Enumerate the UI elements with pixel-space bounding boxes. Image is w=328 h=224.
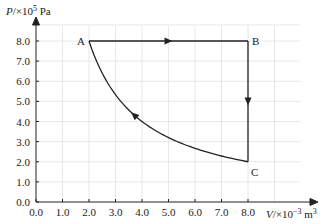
x-tick-label: 6.0 [188, 206, 202, 218]
y-tick-label: 5.0 [16, 95, 30, 107]
x-tick-label: 3.0 [109, 206, 123, 218]
direction-arrows [131, 38, 251, 121]
y-tick-label: 2.0 [16, 156, 30, 168]
x-tick-label: 8.0 [241, 206, 255, 218]
y-tick-label: 3.0 [16, 136, 30, 148]
y-tick-label: 7.0 [16, 55, 30, 67]
pv-diagram: 0.01.02.03.04.05.06.07.08.0 0.01.02.03.0… [0, 0, 328, 224]
x-tick-label: 7.0 [215, 206, 229, 218]
y-axis-arrow-icon [33, 17, 40, 25]
x-tick-label: 1.0 [56, 206, 70, 218]
point-label-a: A [77, 35, 85, 47]
grid [36, 25, 300, 202]
y-tick-label: 4.0 [16, 116, 30, 128]
y-axis-label: P/×105 Pa [5, 4, 51, 17]
y-tick-label: 1.0 [16, 176, 30, 188]
x-tick-label: 4.0 [135, 206, 149, 218]
y-tick-label: 6.0 [16, 75, 30, 87]
x-tick-label: 5.0 [162, 206, 176, 218]
point-label-c: C [251, 166, 258, 178]
x-tick-label: 2.0 [82, 206, 96, 218]
y-tick-label: 8.0 [16, 35, 30, 47]
x-axis-label: V/×10−3 m3 [266, 207, 317, 220]
point-label-b: B [252, 35, 259, 47]
y-tick-label: 0.0 [16, 196, 30, 208]
axes [33, 17, 319, 206]
x-tick-label: 0.0 [29, 206, 43, 218]
x-axis-arrow-icon [310, 199, 318, 206]
